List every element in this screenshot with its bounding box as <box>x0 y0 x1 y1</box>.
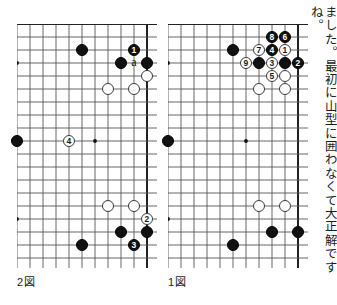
stone-move-number: 7 <box>257 45 262 54</box>
go-board-figure-1[interactable]: 867419325 <box>168 24 298 258</box>
go-board-figure-2[interactable]: 1423a <box>17 24 147 258</box>
stone-move-number: 2 <box>145 214 150 223</box>
stone-move-number: 3 <box>270 58 275 66</box>
stone-move-number: 2 <box>296 58 301 66</box>
stone-move-number: 1 <box>132 45 137 54</box>
stone-move-number: 6 <box>283 32 288 41</box>
stone-move-number: 4 <box>67 136 72 145</box>
stone-move-number: 4 <box>270 45 275 54</box>
figure-caption-figure-1: 1図 <box>168 273 186 289</box>
stone-move-number: 3 <box>132 240 137 249</box>
stone-move-number: 1 <box>283 45 288 54</box>
stone-move-number: 9 <box>244 58 249 66</box>
figure-caption-figure-2: 2図 <box>17 273 35 289</box>
stone-move-number: 8 <box>270 32 275 41</box>
stone-move-number: 5 <box>270 71 275 80</box>
point-marker-a: a <box>128 57 140 69</box>
commentary-text: ました。最初に山型に囲わなくて大正解ですね。 <box>308 6 336 298</box>
